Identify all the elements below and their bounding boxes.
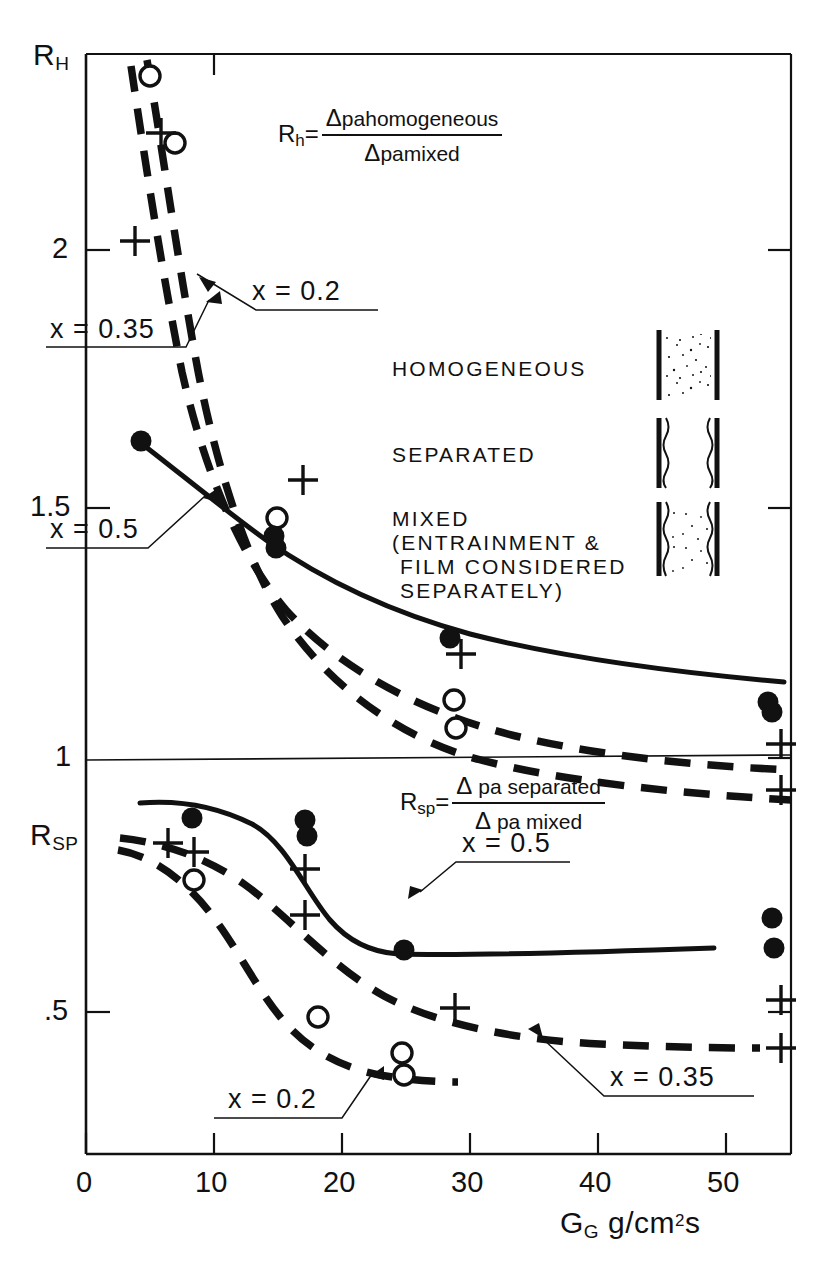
legend-label-homogeneous: HOMOGENEOUS <box>392 358 587 379</box>
x-tick-label-30: 30 <box>451 1168 483 1197</box>
curve-label-lower-x035: x = 0.35 <box>610 1064 715 1091</box>
x-tick-label-0: 0 <box>76 1168 92 1197</box>
curve-label-upper-x035: x = 0.35 <box>50 316 155 343</box>
leader-lines <box>46 274 754 1118</box>
y-axis-title-lower: RSP <box>30 820 79 853</box>
curve-lower-x035 <box>120 838 760 1048</box>
formula-rsp-numerator: Δ pa separated <box>452 772 604 804</box>
y-tick-label-2: 2 <box>52 234 68 263</box>
legend-pictogram-mixed <box>659 502 717 576</box>
y-tick-label-p5: .5 <box>44 996 68 1025</box>
y-tick-label-1: 1 <box>55 742 71 771</box>
legend-label-mixed-line3: FILM CONSIDERED <box>400 556 627 577</box>
curve-label-lower-x02: x = 0.2 <box>228 1086 317 1113</box>
legend-pictogram-separated <box>659 418 717 488</box>
legend-label-separated: SEPARATED <box>392 444 536 465</box>
curve-upper-x02 <box>147 60 791 800</box>
x-tick-label-50: 50 <box>707 1168 739 1197</box>
formula-rh: Rh= Δpahomogeneous Δpamixed <box>278 104 502 167</box>
legend-pictogram-homogeneous <box>659 330 717 400</box>
axes-frame <box>86 54 791 1154</box>
legend-label-mixed-line2: (ENTRAINMENT & <box>392 532 601 553</box>
y-axis-title-upper: RH <box>33 40 69 73</box>
x-tick-label-10: 10 <box>195 1168 227 1197</box>
x-axis-title: GG g/cm2s <box>560 1208 700 1241</box>
legend-label-mixed: MIXED <box>392 508 470 529</box>
curve-label-upper-x02: x = 0.2 <box>252 278 341 305</box>
formula-rh-denominator: Δpamixed <box>322 136 503 167</box>
chart-figure: RH RSP 2 1.5 1 .5 0 10 20 30 40 50 GG g/… <box>0 0 825 1268</box>
legend-label-mixed-line4: SEPARATELY) <box>400 580 564 601</box>
markers-lower-open-circle <box>184 870 414 1085</box>
x-tick-label-40: 40 <box>579 1168 611 1197</box>
formula-rsp: Rsp= Δ pa separated Δ pa mixed <box>400 772 605 835</box>
x-ticks <box>86 54 726 1154</box>
x-tick-label-20: 20 <box>323 1168 355 1197</box>
curve-label-lower-x05: x = 0.5 <box>462 830 551 857</box>
curve-label-upper-x05: x = 0.5 <box>50 516 139 543</box>
formula-rh-numerator: Δpahomogeneous <box>322 104 503 136</box>
